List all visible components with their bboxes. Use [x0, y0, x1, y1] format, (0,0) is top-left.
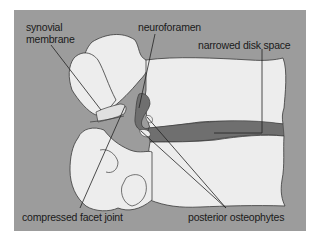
label-synovial-line2: membrane — [26, 33, 75, 45]
label-synovial-membrane: synovial membrane — [26, 21, 75, 45]
upper-vertebral-body — [145, 58, 286, 128]
label-neuroforamen: neuroforamen — [138, 21, 201, 33]
label-posterior-osteophytes: posterior osteophytes — [188, 211, 284, 223]
label-compressed-facet-joint: compressed facet joint — [22, 211, 123, 223]
label-narrowed-disk-space: narrowed disk space — [198, 39, 291, 51]
label-synovial-line1: synovial — [26, 21, 75, 33]
